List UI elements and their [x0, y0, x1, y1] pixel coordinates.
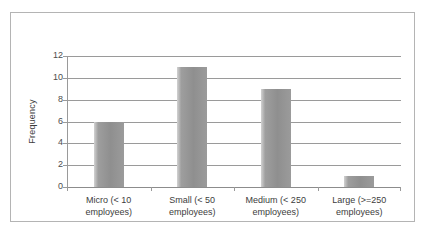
y-axis-tick-mark — [63, 165, 67, 166]
y-axis-tick-mark — [63, 143, 67, 144]
bar[interactable] — [94, 122, 124, 188]
y-axis-tick-mark — [63, 100, 67, 101]
x-axis-tick-mark — [234, 187, 235, 191]
y-axis-tick-label: 10 — [53, 73, 63, 82]
gridline — [67, 100, 401, 101]
plot-area — [67, 56, 401, 187]
x-axis-tick-mark — [151, 187, 152, 191]
x-axis-tick-mark — [318, 187, 319, 191]
gridline — [67, 78, 401, 79]
y-axis-tick-mark — [63, 56, 67, 57]
x-axis-tick-mark — [67, 187, 68, 191]
bar[interactable] — [177, 67, 207, 187]
x-axis-category-label: Large (>=250 employees) — [318, 195, 402, 218]
y-axis-tick-mark — [63, 78, 67, 79]
y-axis-tick-labels: 121086420 — [37, 13, 63, 221]
x-axis-category-label: Medium (< 250 employees) — [234, 195, 318, 218]
x-axis-category-label: Micro (< 10 employees) — [67, 195, 151, 218]
gridline — [67, 56, 401, 57]
y-axis-tick-mark — [63, 122, 67, 123]
bar[interactable] — [261, 89, 291, 187]
y-axis-tick-label: 12 — [53, 51, 63, 60]
bar[interactable] — [344, 176, 374, 187]
x-axis-category-label: Small (< 50 employees) — [151, 195, 235, 218]
y-axis-tick-mark — [63, 187, 67, 188]
chart-frame: Frequency 121086420 Micro (< 10 employee… — [10, 12, 415, 222]
x-axis-tick-mark — [400, 187, 401, 191]
